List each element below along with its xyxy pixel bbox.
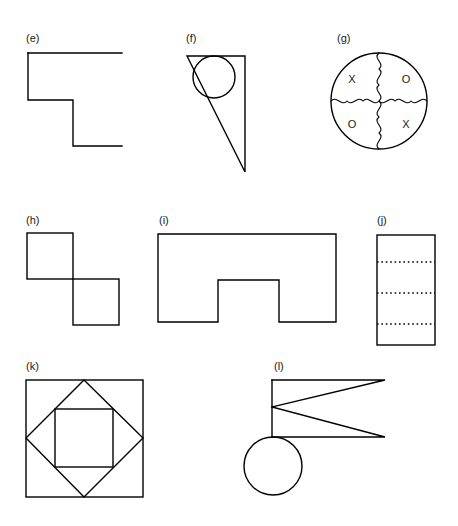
tall-rectangle	[377, 235, 435, 345]
figure-l-label: (l)	[274, 360, 284, 372]
wavy-horizontal-divider	[331, 99, 427, 102]
figure-j: (j)	[377, 214, 435, 345]
outer-square	[26, 380, 143, 497]
tangent-circle	[244, 437, 302, 495]
figure-k-label: (k)	[26, 360, 39, 372]
quadrant-letter-bottom-right: X	[402, 118, 410, 130]
figures-canvas: (e) (f) (g) X O O X (h)	[0, 0, 458, 526]
figure-f-label: (f)	[186, 32, 196, 44]
figure-h: (h)	[26, 214, 119, 325]
square-upper-left	[27, 233, 73, 279]
quadrant-letter-top-right: O	[402, 73, 411, 85]
figure-sheet: (e) (f) (g) X O O X (h)	[0, 0, 458, 526]
figure-g-label: (g)	[337, 32, 350, 44]
figure-k: (k)	[26, 360, 143, 497]
figure-l: (l)	[244, 360, 385, 495]
lower-triangle	[272, 407, 385, 437]
figure-e: (e)	[26, 32, 122, 146]
square-lower-right	[73, 279, 119, 325]
figure-i-label: (i)	[159, 214, 169, 226]
inscribed-circle	[193, 56, 235, 98]
upper-triangle	[272, 380, 385, 407]
figure-h-label: (h)	[26, 214, 39, 226]
notched-rectangle	[158, 234, 336, 322]
quadrant-letter-bottom-left: O	[348, 118, 357, 130]
quadrant-letter-top-left: X	[348, 73, 356, 85]
figure-g: (g) X O O X	[331, 32, 427, 149]
figure-e-label: (e)	[26, 32, 39, 44]
inner-square	[55, 409, 113, 467]
figure-f: (f)	[186, 32, 245, 172]
figure-i: (i)	[158, 214, 336, 322]
inscribed-diamond	[26, 380, 143, 497]
figure-j-label: (j)	[377, 214, 387, 226]
right-triangle	[187, 56, 245, 172]
staircase-polyline-body	[28, 53, 122, 146]
